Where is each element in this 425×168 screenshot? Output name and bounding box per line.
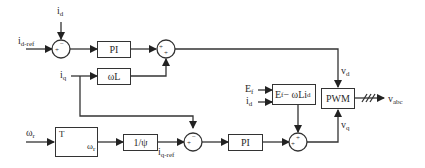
inverse-psi-block: 1/ψ — [123, 134, 158, 151]
sum2-plus-left-sign: + — [159, 44, 163, 51]
pwm-block: PWM — [321, 88, 355, 109]
curve-y-axis-label: T — [59, 130, 65, 139]
label-omega-r: ωr — [26, 128, 35, 140]
label-vq: vq — [341, 120, 350, 132]
sum3-plus-sign: + — [187, 140, 191, 147]
label-iq-ref: iq-ref — [158, 147, 174, 159]
label-id-ref: id-ref — [18, 36, 34, 48]
label-vd: vd — [341, 66, 350, 78]
sum1-minus-sign: − — [60, 41, 64, 48]
torque-speed-curve-block: T ωr — [55, 127, 98, 157]
sum2-plus-bottom-sign: + — [164, 50, 168, 57]
label-id: id — [57, 6, 63, 18]
ef-minus-omega-l-id-block: Ef − ωLid — [272, 84, 316, 105]
label-iq: iq — [60, 70, 66, 82]
sum4-plus-left-sign: + — [291, 141, 295, 148]
pi-controller-q-block: PI — [228, 134, 263, 151]
sum4-plus-top-sign: + — [296, 135, 300, 142]
curve-x-axis-label: ωr — [87, 142, 95, 153]
sum1-plus-sign: + — [55, 47, 59, 54]
pi-controller-d-block: PI — [97, 41, 131, 58]
sum3-minus-sign: − — [192, 134, 196, 141]
label-vabc: vabc — [388, 94, 403, 106]
omega-l-block: ωL — [97, 68, 131, 85]
label-id-2: id — [246, 96, 252, 108]
